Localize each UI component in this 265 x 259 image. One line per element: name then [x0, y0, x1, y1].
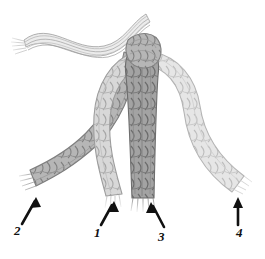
figure-canvas: 2 1 3 4 — [0, 0, 265, 259]
callout-label-4: 4 — [236, 226, 243, 239]
braid-illustration — [0, 0, 265, 259]
knot-junction — [126, 34, 161, 68]
callout-label-2: 2 — [14, 224, 21, 237]
callout-label-3: 3 — [158, 230, 165, 243]
callout-label-1: 1 — [94, 226, 101, 239]
